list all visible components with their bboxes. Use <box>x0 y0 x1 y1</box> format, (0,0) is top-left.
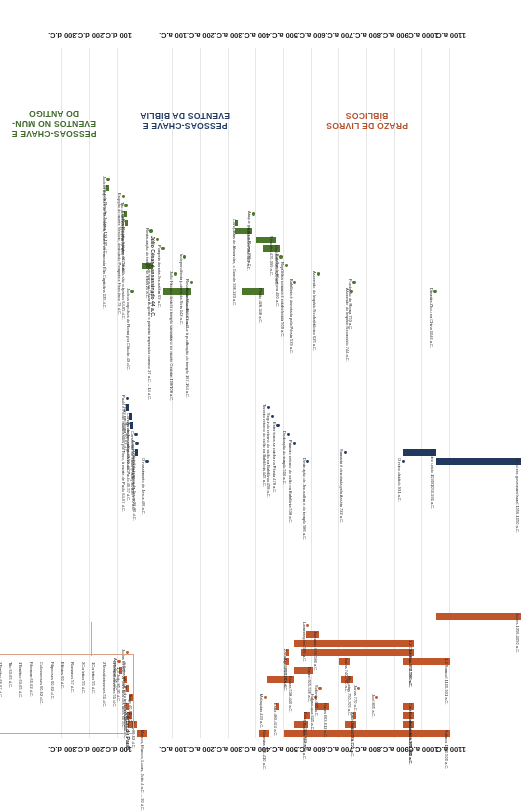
timeline-item-label: Amós 760-750 a.C. <box>350 712 354 746</box>
callout-item: Tito 63-65 d.C. <box>8 662 12 688</box>
timeline-item-label: Samaria é derrotada pela Assíria 722 a.C… <box>339 449 343 523</box>
timeline-point <box>264 696 267 699</box>
timeline-bar <box>436 458 521 465</box>
timeline-item-label: Neemias 445-410 a.C. <box>262 730 266 770</box>
timeline-point <box>402 460 405 463</box>
gridline <box>366 48 367 738</box>
band-title-prazo-de-livros-biblicos: PRAZO DE LIVROS BÍBLICOS <box>272 110 462 130</box>
timeline-point <box>317 272 320 275</box>
timeline-item-label: Restauração do templo se inicia 20 a.C. <box>145 228 149 299</box>
timeline-point <box>190 281 193 284</box>
timeline-item-label: Terceiro retorno do exílio na Babilônia … <box>262 404 266 487</box>
axis-tick-label: 600 a.C. <box>298 31 326 40</box>
timeline-item-label: 1-2 Crônicas 971-538 a.C. <box>408 640 412 687</box>
gridline <box>200 48 201 738</box>
timeline-item-label: Joel 835 a.C. <box>370 694 374 717</box>
gridline <box>255 48 256 738</box>
timeline-item-label: Júlio César é assassinado 44 a.C. <box>150 236 155 317</box>
timeline-item-label: Judeus expulsos de Jerusalém, cidade ren… <box>102 176 106 309</box>
timeline-item-label: Platão 428-348 a.C. <box>258 288 262 323</box>
timeline-point <box>344 451 347 454</box>
axis-tick-label: 200 a.C. <box>187 31 215 40</box>
callout-item: 2Timóteo 66-67 d.C. <box>0 662 2 698</box>
timeline-item-label: Babilônia é derrotada pela Pérsia 539 a.… <box>288 279 292 354</box>
timeline-item-label: Zacarias 520-516 a.C. <box>283 649 287 688</box>
axis-tick-label: 400 a.C. <box>242 31 270 40</box>
timeline-bar <box>284 730 450 737</box>
timeline-item-label: Fundação de Roma 753 a.C. <box>348 279 352 330</box>
timeline-point <box>285 264 288 267</box>
timeline-item-label: Primeiro retorno do exílio na Babilônia … <box>288 440 292 524</box>
timeline-item-label: República romana é estabelecida 509 a.C. <box>280 262 284 337</box>
timeline-item-label: Ataque gaulês a Roma 390 a.C. <box>247 211 251 268</box>
timeline-item-label: Heródoto 485-425 a.C. <box>273 245 277 286</box>
axis-tick-label: 1000 a.C. <box>406 31 438 40</box>
axis-tick-label: 100 a.C. <box>159 31 187 40</box>
axis-tick-label: 200 d.C. <box>76 745 104 754</box>
band-title-pessoas-chave-e-eventos-da-biblia: PESSOAS-CHAVE E EVENTOS DA BÍBLIA <box>110 110 260 130</box>
timeline-item-label: Jonas 770 a.C. <box>352 685 356 712</box>
axis-tick-label: 200 a.C. <box>187 745 215 754</box>
timeline-item-label: Malaquias 433 a.C. <box>259 694 263 728</box>
axis-tick-label: 300 d.C. <box>48 31 76 40</box>
axis-tick-label: 300 a.C. <box>215 31 243 40</box>
timeline-item-label: Mateus, Marcos, Lucas, João 4 a.C. – 30 … <box>140 730 144 811</box>
timeline-item-label: Jeremias 626-580 a.C. <box>313 631 317 671</box>
axis-tick-label: 300 a.C. <box>215 745 243 754</box>
timeline-bar <box>436 613 521 620</box>
gridline <box>89 48 90 738</box>
timeline-item-label: Daniel 605-536 a.C. <box>307 667 311 702</box>
callout-item: 2Tessalonicenses 51 d.C. <box>101 662 105 707</box>
callout-item: 2Coríntios 55 d.C. <box>81 662 85 694</box>
timeline-point <box>252 212 255 215</box>
axis-tick-label: 1100 a.C. <box>434 745 466 754</box>
timeline-item-label: Destruição de Jerusalém e do templo 586 … <box>301 458 305 540</box>
callout-item: Filipenses 60-62 d.C. <box>49 662 53 700</box>
timeline-item-label: Isaías 740-700 a.C. <box>344 658 348 693</box>
gridline <box>117 48 118 738</box>
callout-item: 1Timóteo 63-65 d.C. <box>18 662 22 698</box>
gridline <box>228 48 229 738</box>
timeline-item-label: Ester torna-se rainha na Pérsia 478 a.C. <box>272 422 276 493</box>
timeline-item-label: Esdras 538-440 a.C. <box>288 676 292 713</box>
timeline-item-label: Naum 663-612 a.C. <box>323 703 327 738</box>
timeline-point <box>174 272 177 275</box>
callout-item: 1Tessalonicenses 51 d.C. <box>112 662 116 707</box>
gridline <box>394 48 395 738</box>
timeline-item-label: Pompeia derrota Jerusalém 63 a.C. <box>157 245 161 308</box>
axis-tick-label: 800 a.C. <box>353 31 381 40</box>
gridline <box>449 48 450 738</box>
timeline-point <box>434 290 437 293</box>
axis-tick-label: 300 d.C. <box>48 745 76 754</box>
timeline-item-label: O reino dividido 931 a.C. <box>397 458 401 502</box>
timeline-item-label: Salmos 1100-500 a.C. <box>444 730 448 769</box>
axis-tick-label: 800 a.C. <box>353 745 381 754</box>
timeline-item-label: Ascensão do Império Neobabilônico 625 a.… <box>312 271 316 351</box>
axis-tick-label: 500 a.C. <box>270 745 298 754</box>
axis-tick-label: 900 a.C. <box>381 31 409 40</box>
timeline-item-label: 1-2 Samuel 1100-931 a.C. <box>444 658 448 705</box>
timeline-item-label: Sofonias 630 a.C. <box>314 685 318 717</box>
timeline-item-label: Ester 483-474 a.C. <box>273 703 277 736</box>
axis-tick-label: 100 d.C. <box>104 31 132 40</box>
timeline-item-label: Dedicação do templo 516 a.C. <box>282 431 286 485</box>
timeline-item-label: Obadias 586-538 a.C. <box>301 721 305 760</box>
timeline-item-label: Revolta de Macabeus conduz à purificação… <box>185 279 189 398</box>
timeline-item-label: O nascimento de Jesus 4/6 a.C. <box>141 458 145 515</box>
timeline-item-label: João Hircano destrói o templo samaritano… <box>169 271 173 401</box>
timeline-point <box>287 433 290 436</box>
timeline-item-label: Cântico dos Cânticos 971-931 a.C. <box>408 703 412 765</box>
timeline-item-label: Independência judaica da Síria 142 a.C. <box>178 254 182 325</box>
callout-item: Romanos 57 d.C. <box>70 662 74 693</box>
timeline-item-label: Os juízes governam Israel 1356-1050 a.C. <box>515 458 519 533</box>
timeline-item-label: O reino unido 1030/1050-931 a.C. <box>430 449 434 509</box>
timeline-point <box>156 238 159 241</box>
timeline-item-label: Judeus expulsos de Roma por Cláudio 49 d… <box>126 288 130 371</box>
timeline-point <box>122 195 125 198</box>
timeline-item-label: Lamentações 586 a.C. <box>301 622 305 662</box>
timeline-item-label: Dinastia Zhou na China 1046 a.C. <box>429 288 433 348</box>
timeline-item-label: Conquistas de Alexandre, o Grande 336-32… <box>232 219 236 306</box>
timeline-point <box>126 397 129 400</box>
timeline-point <box>293 442 296 445</box>
